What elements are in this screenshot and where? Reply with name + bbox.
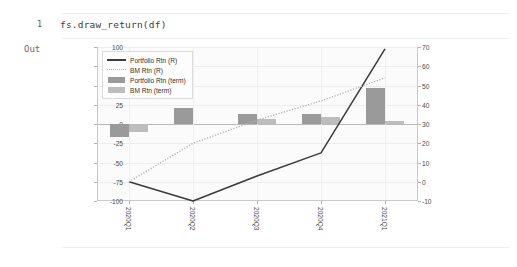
x-tick-mark xyxy=(129,201,130,204)
legend-label: Portfolio Rtn (R) xyxy=(130,57,177,64)
x-tick-mark xyxy=(385,201,386,204)
legend-key-icon xyxy=(107,66,126,74)
x-tick-label: 2020Q2 xyxy=(189,207,196,230)
y-tick-mark-right xyxy=(418,163,421,164)
legend-label: Portfolio Rtn (term) xyxy=(130,77,186,84)
y-tick-mark-right xyxy=(418,182,421,183)
y-tick-mark-right xyxy=(418,66,421,67)
y-tick-label-right: 10 xyxy=(422,159,429,166)
code-text[interactable]: fs.draw_return(df) xyxy=(60,19,167,30)
x-tick-mark xyxy=(321,201,322,204)
y-tick-label-right: 40 xyxy=(422,101,429,108)
chart-legend: Portfolio Rtn (R)BM Rtn (R)Portfolio Rtn… xyxy=(102,51,193,99)
x-tick-mark xyxy=(257,201,258,204)
y-tick-label-right: 0 xyxy=(422,178,426,185)
legend-label: BM Rtn (R) xyxy=(130,67,163,74)
code-line-number: 1 xyxy=(28,19,42,29)
x-tick-label: 2021Q1 xyxy=(381,207,388,230)
y-tick-mark-right xyxy=(418,143,421,144)
y-tick-mark-right xyxy=(418,47,421,48)
legend-item: Portfolio Rtn (term) xyxy=(107,75,186,85)
y-tick-label-right: 30 xyxy=(422,121,429,128)
y-tick-mark-left xyxy=(94,201,97,202)
x-tick-label: 2020Q3 xyxy=(253,207,260,230)
cell-divider-bottom xyxy=(62,247,509,248)
y-tick-label-right: 50 xyxy=(422,82,429,89)
y-tick-mark-right xyxy=(418,201,421,202)
y-tick-label-right: 70 xyxy=(422,44,429,51)
legend-label: BM Rtn (term) xyxy=(130,87,171,94)
x-tick-label: 2020Q1 xyxy=(125,207,132,230)
legend-key-icon xyxy=(107,76,126,84)
legend-key-icon xyxy=(107,86,126,94)
cell-divider-middle xyxy=(62,38,509,39)
x-tick-label: 2020Q4 xyxy=(317,207,324,230)
y-tick-label-right: 20 xyxy=(422,140,429,147)
y-tick-mark-right xyxy=(418,105,421,106)
chart-figure: 1007550250-25-50-75-100 706050403020100-… xyxy=(62,42,482,242)
legend-item: Portfolio Rtn (R) xyxy=(107,55,186,65)
legend-item: BM Rtn (term) xyxy=(107,85,186,95)
y-tick-mark-right xyxy=(418,124,421,125)
notebook-page: 1 fs.draw_return(df) Out 1007550250-25-5… xyxy=(0,0,517,267)
legend-key-icon xyxy=(107,56,126,64)
cell-divider-top xyxy=(62,13,509,14)
y-tick-label-right: -10 xyxy=(422,198,432,205)
y-tick-label-right: 60 xyxy=(422,63,429,70)
y-tick-mark-right xyxy=(418,86,421,87)
output-prompt-label: Out xyxy=(24,44,40,54)
legend-item: BM Rtn (R) xyxy=(107,65,186,75)
code-cell[interactable]: 1 fs.draw_return(df) xyxy=(0,17,517,37)
